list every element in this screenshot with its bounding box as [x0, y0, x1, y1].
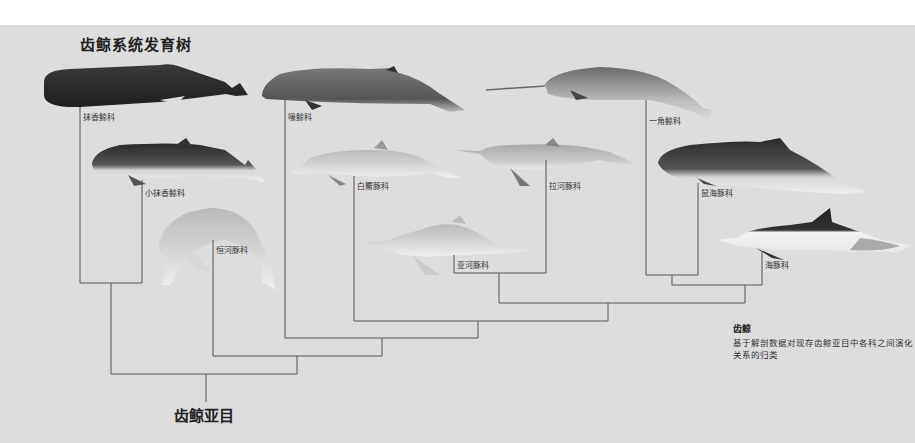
label-iniidae: 亚河豚科: [457, 259, 489, 270]
label-phocoenidae: 鼠海豚科: [701, 187, 733, 198]
caption: 齿鲸 基于解剖数据对现存齿鲸亚目中各科之间演化关系的归类: [733, 322, 913, 361]
label-delphinidae: 海豚科: [765, 259, 789, 270]
porpoise-illustration: [658, 138, 868, 194]
root-label: 齿鲸亚目: [174, 404, 234, 425]
beaked-whale-illustration: [262, 66, 465, 112]
caption-text: 基于解剖数据对现存齿鲸亚目中各科之间演化关系的归类: [733, 337, 913, 361]
label-kogiidae: 小抹香鲸科: [145, 187, 185, 198]
amazon-river-dolphin-illustration: [363, 215, 535, 275]
label-platanistidae: 恒河豚科: [216, 244, 248, 255]
label-physeteridae: 抹香鲸科: [83, 111, 115, 122]
label-pontoporiidae: 拉河豚科: [549, 180, 581, 191]
caption-title: 齿鲸: [733, 322, 913, 335]
label-lipotidae: 白鱀豚科: [357, 180, 389, 191]
common-dolphin-illustration: [717, 208, 912, 260]
label-ziphiidae: 喙鲸科: [288, 111, 312, 122]
label-monodontidae: 一角鲸科: [649, 115, 681, 126]
phylogenetic-tree: [0, 0, 915, 443]
pygmy-sperm-whale-illustration: [92, 138, 265, 186]
sperm-whale-illustration: [44, 64, 248, 107]
